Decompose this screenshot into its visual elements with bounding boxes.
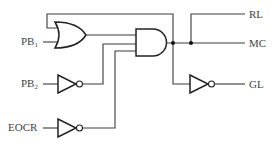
- not-gate-eocr: [58, 119, 76, 137]
- not-gate-pb2: [58, 75, 76, 93]
- junction-dot: [171, 41, 175, 45]
- input-label-pb1: PB1: [21, 36, 38, 49]
- input-label-eocr: EOCR: [8, 122, 37, 133]
- eocr-to-and-wire: [83, 51, 137, 128]
- output-label-gl: GL: [249, 79, 264, 90]
- output-label-mc: MC: [249, 38, 266, 49]
- output-label-rl: RL: [249, 9, 263, 20]
- not-bubble-gl: [209, 81, 215, 87]
- logic-diagram: [0, 0, 275, 153]
- or-gate: [55, 22, 86, 48]
- and-gate: [136, 29, 167, 56]
- junction-dot: [189, 41, 193, 45]
- not-gate-gl: [190, 75, 208, 93]
- pb2-to-and-wire: [83, 44, 137, 84]
- rl-wire: [191, 14, 245, 43]
- input-label-pb2: PB2: [21, 78, 38, 91]
- gl-branch-wire: [173, 43, 190, 84]
- not-bubble-pb2: [77, 81, 83, 87]
- not-bubble-eocr: [77, 125, 83, 131]
